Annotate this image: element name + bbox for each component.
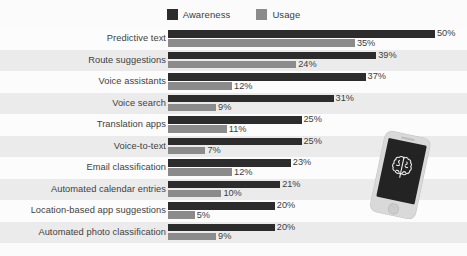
chart-row: Email classification23%12% [0,157,467,179]
bar-usage[interactable] [168,211,195,219]
bar-value-usage: 12% [234,82,252,91]
chart-row: Voice-to-text25%7% [0,136,467,158]
bar-usage[interactable] [168,147,205,155]
bar-value-awareness: 37% [368,72,386,81]
chart-row: Voice search31%9% [0,93,467,115]
legend-label-usage: Usage [272,9,300,20]
legend-label-awareness: Awareness [183,9,231,20]
bar-usage[interactable] [168,104,216,112]
bar-awareness[interactable] [168,138,302,146]
legend-swatch-awareness [167,9,178,20]
category-label: Automated photo classification [0,228,168,237]
bar-awareness[interactable] [168,159,291,167]
category-label: Voice-to-text [0,142,168,151]
bar-value-awareness: 20% [277,223,295,232]
bar-value-awareness: 50% [437,29,455,38]
bar-value-usage: 10% [223,189,241,198]
bar-value-usage: 11% [229,125,247,134]
bar-value-awareness: 20% [277,201,295,210]
bar-usage[interactable] [168,39,355,47]
chart-row: Predictive text50%35% [0,28,467,50]
bar-awareness[interactable] [168,181,280,189]
bar-usage[interactable] [168,125,227,133]
category-label: Route suggestions [0,56,168,65]
bar-awareness[interactable] [168,116,302,124]
category-label: Automated calendar entries [0,185,168,194]
chart-row: Automated photo classification20%9% [0,222,467,244]
bar-value-awareness: 21% [282,180,300,189]
bar-group: 31%9% [168,93,467,115]
bar-value-awareness: 25% [304,115,322,124]
bar-awareness[interactable] [168,52,376,60]
legend-entry-awareness[interactable]: Awareness [167,9,231,20]
bar-group: 25%7% [168,136,467,158]
bar-value-awareness: 31% [336,94,354,103]
bar-awareness[interactable] [168,95,334,103]
bar-usage[interactable] [168,190,221,198]
bar-value-usage: 7% [207,146,220,155]
bar-group: 37%12% [168,71,467,93]
bar-awareness[interactable] [168,202,275,210]
bar-value-usage: 9% [218,232,231,241]
legend-entry-usage[interactable]: Usage [256,9,300,20]
bar-awareness[interactable] [168,30,435,38]
bar-usage[interactable] [168,82,232,90]
category-label: Predictive text [0,34,168,43]
bar-value-usage: 12% [234,168,252,177]
bar-usage[interactable] [168,61,296,69]
legend-swatch-usage [256,9,267,20]
bar-value-awareness: 25% [304,137,322,146]
bar-value-usage: 35% [357,39,375,48]
category-label: Location-based app suggestions [0,206,168,215]
bar-group: 20%5% [168,200,467,222]
bar-usage[interactable] [168,233,216,241]
chart-row: Automated calendar entries21%10% [0,179,467,201]
bar-value-awareness: 23% [293,158,311,167]
bar-value-usage: 9% [218,103,231,112]
category-label: Voice assistants [0,77,168,86]
bar-awareness[interactable] [168,224,275,232]
bar-group: 39%24% [168,50,467,72]
chart-row: Translation apps25%11% [0,114,467,136]
chart-legend: Awareness Usage [0,6,467,22]
bar-value-awareness: 39% [378,51,396,60]
bar-group: 25%11% [168,114,467,136]
category-label: Email classification [0,163,168,172]
category-label: Voice search [0,99,168,108]
bar-group: 21%10% [168,179,467,201]
bar-usage[interactable] [168,168,232,176]
chart-row: Route suggestions39%24% [0,50,467,72]
bar-chart: Awareness Usage Predictive text50%35%Rou… [0,0,467,256]
bar-group: 20%9% [168,222,467,244]
bar-awareness[interactable] [168,73,366,81]
bar-value-usage: 24% [298,60,316,69]
chart-row: Location-based app suggestions20%5% [0,200,467,222]
bar-group: 23%12% [168,157,467,179]
plot-area: Predictive text50%35%Route suggestions39… [0,28,467,246]
bar-value-usage: 5% [197,211,210,220]
chart-row: Voice assistants37%12% [0,71,467,93]
category-label: Translation apps [0,120,168,129]
bar-group: 50%35% [168,28,467,50]
